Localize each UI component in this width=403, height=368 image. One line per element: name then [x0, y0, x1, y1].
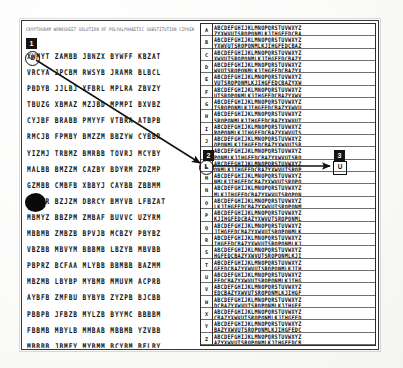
tableau-row-pair: ABCDEFGHIJKLMNOPQRSTUVWXYZDCBAZYXWVUTSRQ…: [213, 296, 375, 308]
tableau-row-pair: ABCDEFGHIJKLMNOPQRSTUVWXYZCBAZYXWVUTSRQP…: [213, 308, 375, 320]
tableau-row-pair: ABCDEFGHIJKLMNOPQRSTUVWXYZVUTSRQPONMLKJI…: [213, 73, 375, 85]
tableau-row-pair: ABCDEFGHIJKLMNOPQRSTUVWXYZMLKJIHGFEDCBAZ…: [213, 184, 375, 196]
annotation-badge-1[interactable]: 1: [26, 38, 37, 49]
tableau-row-pair: ABCDEFGHIJKLMNOPQRSTUVWXYZUTSRQPONMLKJIH…: [213, 86, 375, 98]
tableau-row-pair: ABCDEFGHIJKLMNOPQRSTUVWXYZNMLKJIHGFEDCBA…: [213, 172, 375, 184]
tableau-row-label: C: [201, 49, 212, 61]
tableau-row-label: A: [201, 24, 212, 36]
tableau-row-pair: ABCDEFGHIJKLMNOPQRSTUVWXYZSRQPONMLKJIHGF…: [213, 110, 375, 122]
tableau-row-label: N: [201, 184, 212, 196]
tableau-row-label-column: ABCDEFGHIJKLMNOPQRSTUVWXYZ: [201, 24, 213, 345]
tableau-body: ABCDEFGHIJKLMNOPQRSTUVWXYZZYXWVUTSRQPONM…: [213, 24, 375, 345]
cryptanalysis-figure: CRYPTOGRAM WORKSHEET SOLUTION OF POLYALP…: [0, 0, 403, 368]
annotation-circled-letter-1[interactable]: L: [25, 51, 40, 66]
tableau-row-pair: ABCDEFGHIJKLMNOPQRSTUVWXYZPONMLKJIHGFEDC…: [213, 147, 375, 159]
tableau-row-label: O: [201, 197, 212, 209]
vigenere-tableau: ABCDEFGHIJKLMNOPQRSTUVWXYZ ABCDEFGHIJKLM…: [200, 23, 376, 346]
tableau-row-pair: ABCDEFGHIJKLMNOPQRSTUVWXYZGFEDCBAZYXWVUT…: [213, 259, 375, 271]
tableau-row-pair: ABCDEFGHIJKLMNOPQRSTUVWXYZEDCBAZYXWVUTSR…: [213, 283, 375, 295]
tableau-row-label: B: [201, 36, 212, 48]
tableau-row-label: T: [201, 259, 212, 271]
tableau-row-pair: ABCDEFGHIJKLMNOPQRSTUVWXYZTSRQPONMLKJIHG…: [213, 98, 375, 110]
tableau-row-label: P: [201, 209, 212, 221]
tableau-row-pair: ABCDEFGHIJKLMNOPQRSTUVWXYZAZYXWVUTSRQPON…: [213, 333, 375, 345]
ciphertext-row: MBBBB JBMFY MYBMM BCYBM BFLBY: [27, 337, 199, 348]
tableau-row-pair: ABCDEFGHIJKLMNOPQRSTUVWXYZLKJIHGFEDCBAZY…: [213, 197, 375, 209]
tableau-row-pair: ABCDEFGHIJKLMNOPQRSTUVWXYZKJIHGFEDCBAZYX…: [213, 209, 375, 221]
tableau-row-pair: ABCDEFGHIJKLMNOPQRSTUVWXYZQPONMLKJIHGFED…: [213, 135, 375, 147]
annotation-boxed-letter-3[interactable]: U: [333, 161, 347, 175]
tableau-row-pair: ABCDEFGHIJKLMNOPQRSTUVWXYZZYXWVUTSRQPONM…: [213, 24, 375, 36]
tableau-row-label: X: [201, 308, 212, 320]
tableau-row-pair: ABCDEFGHIJKLMNOPQRSTUVWXYZIHGFEDCBAZYXWV…: [213, 234, 375, 246]
tableau-row-pair: ABCDEFGHIJKLMNOPQRSTUVWXYZXWVUTSRQPONMLK…: [213, 49, 375, 61]
tableau-row-label: Z: [201, 333, 212, 345]
tableau-row-pair: ABCDEFGHIJKLMNOPQRSTUVWXYZFEDCBAZYXWVUTS…: [213, 271, 375, 283]
tableau-cipher-line: AZYXWVUTSRQPONMLKJIHGFEDCB: [213, 339, 375, 345]
tableau-row-pair: ABCDEFGHIJKLMNOPQRSTUVWXYZJIHGFEDCBAZYXW…: [213, 222, 375, 234]
tableau-row-pair: ABCDEFGHIJKLMNOPQRSTUVWXYZONMLKJIHGFEDCB…: [213, 160, 375, 172]
tableau-row-pair: ABCDEFGHIJKLMNOPQRSTUVWXYZRQPONMLKJIHGFE…: [213, 123, 375, 135]
ink-blot-icon: [25, 193, 46, 212]
tableau-row-label: W: [201, 296, 212, 308]
worksheet-header-line: CRYPTOGRAM WORKSHEET SOLUTION OF POLYALP…: [26, 27, 198, 32]
tableau-row-pair: ABCDEFGHIJKLMNOPQRSTUVWXYZWVUTSRQPONMLKJ…: [213, 61, 375, 73]
tableau-row-label: U: [201, 271, 212, 283]
tableau-row-pair: ABCDEFGHIJKLMNOPQRSTUVWXYZHGFEDCBAZYXWVU…: [213, 246, 375, 258]
tableau-row-label: I: [201, 123, 212, 135]
tableau-row-pair: ABCDEFGHIJKLMNOPQRSTUVWXYZYXWVUTSRQPONML…: [213, 36, 375, 48]
tableau-row-label: Q: [201, 222, 212, 234]
tableau-row-label: J: [201, 135, 212, 147]
tableau-row-label: R: [201, 234, 212, 246]
tableau-row-label: G: [201, 98, 212, 110]
tableau-row-label: Y: [201, 320, 212, 332]
ciphertext-rows: XWMYT ZAMBB JBNZX BYWFF KBZATVRCYA JPCBM…: [27, 49, 199, 348]
tableau-row-label: F: [201, 86, 212, 98]
tableau-row-label: D: [201, 61, 212, 73]
tableau-row-pair: ABCDEFGHIJKLMNOPQRSTUVWXYZBAZYXWVUTSRQPO…: [213, 320, 375, 332]
tableau-row-label: S: [201, 246, 212, 258]
tableau-row-label: E: [201, 73, 212, 85]
tableau-row-label: H: [201, 110, 212, 122]
ciphertext-pane: CRYPTOGRAM WORKSHEET SOLUTION OF POLYALP…: [24, 22, 199, 348]
tableau-row-label: V: [201, 283, 212, 295]
annotation-circled-letter-2[interactable]: L: [199, 160, 214, 175]
annotation-badge-3[interactable]: 3: [334, 150, 345, 161]
